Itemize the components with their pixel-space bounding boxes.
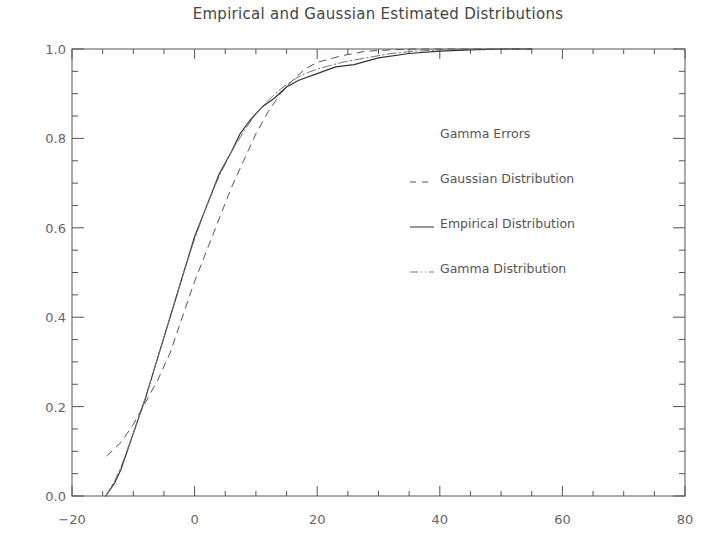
series-gaussian-distribution [107, 49, 532, 456]
y-tick-label: 0.2 [45, 400, 66, 415]
x-axis-ticks: −20020406080 [58, 49, 693, 527]
y-axis-ticks: 0.00.20.40.60.81.0 [45, 42, 685, 504]
x-tick-label: 60 [554, 512, 571, 527]
legend-label-empirical: Empirical Distribution [440, 216, 575, 231]
x-tick-label: 0 [190, 512, 198, 527]
plot-border [72, 49, 685, 496]
x-tick-label: −20 [58, 512, 85, 527]
x-tick-label: 20 [309, 512, 326, 527]
x-tick-label: 40 [432, 512, 449, 527]
legend: Gamma Errors Gaussian Distribution Empir… [410, 126, 575, 276]
legend-label-gamma: Gamma Distribution [440, 261, 566, 276]
y-tick-label: 0.8 [45, 131, 66, 146]
cdf-chart: Empirical and Gaussian Estimated Distrib… [0, 0, 720, 548]
legend-label-gaussian: Gaussian Distribution [440, 171, 574, 186]
y-tick-label: 0.6 [45, 221, 66, 236]
x-tick-label: 80 [677, 512, 694, 527]
y-tick-label: 0.4 [45, 310, 66, 325]
y-tick-label: 0.0 [45, 489, 66, 504]
legend-entry-empirical: Empirical Distribution [410, 216, 575, 231]
legend-entry-gamma: Gamma Distribution [410, 261, 566, 276]
plot-frame [72, 49, 685, 496]
chart-title: Empirical and Gaussian Estimated Distrib… [193, 5, 564, 23]
legend-title: Gamma Errors [440, 126, 530, 141]
legend-entry-gaussian: Gaussian Distribution [410, 171, 574, 186]
y-tick-label: 1.0 [45, 42, 66, 57]
